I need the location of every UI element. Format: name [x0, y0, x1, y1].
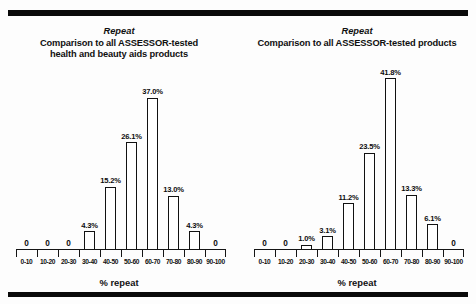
- x-axis-tick: [58, 250, 79, 257]
- histogram-bin: 37.0%: [142, 63, 163, 249]
- x-axis-tick-label: 70-80: [163, 258, 184, 270]
- bar-value-label: 13.0%: [163, 185, 184, 194]
- bar-value-label: 23.5%: [359, 142, 380, 151]
- histogram-bin: 0: [58, 63, 79, 249]
- bar-value-label: 3.1%: [319, 226, 336, 235]
- x-axis-tick-label: 90-100: [205, 258, 226, 270]
- bar-value-label: 6.1%: [424, 214, 441, 223]
- tick-mark: [100, 250, 101, 257]
- histogram-bin: 15.2%: [100, 63, 121, 249]
- tick-mark: [37, 250, 38, 257]
- x-axis-tick-label: 90-100: [443, 258, 464, 270]
- histogram-bin: 6.1%: [422, 51, 443, 249]
- figure-page: Repeat Comparison to all ASSESSOR-tested…: [0, 0, 476, 304]
- histogram-bin: 1.0%: [296, 51, 317, 249]
- x-axis-tick-label: 0-10: [254, 258, 275, 270]
- bar-value-label: 15.2%: [100, 176, 121, 185]
- tick-mark: [463, 250, 464, 257]
- top-rule: [8, 10, 468, 16]
- bar-value-label: 41.8%: [380, 68, 401, 77]
- histogram-bin: 0: [443, 51, 464, 249]
- chart-title-left: Repeat Comparison to all ASSESSOR-tested…: [6, 20, 232, 61]
- bar-value-label: 11.2%: [338, 193, 358, 202]
- histogram-bar: [406, 195, 417, 249]
- histogram-bar: [343, 203, 354, 249]
- bar-value-label: 26.1%: [121, 132, 142, 141]
- bar-zero-label: 0: [451, 239, 455, 248]
- histogram-bin: 0: [37, 63, 58, 249]
- tick-mark: [443, 250, 444, 257]
- histogram-bar: [126, 142, 137, 249]
- bar-value-label: 37.0%: [142, 87, 163, 96]
- tick-mark: [225, 250, 226, 257]
- tick-mark: [401, 250, 402, 257]
- bottom-rule: [8, 292, 468, 297]
- chart-eyebrow-right: Repeat: [244, 26, 470, 38]
- chart-title-right: Repeat Comparison to all ASSESSOR-tested…: [244, 20, 470, 49]
- tick-mark: [121, 250, 122, 257]
- tick-mark: [359, 250, 360, 257]
- x-axis-tick-labels-right: 0-1010-2020-3030-4040-5050-6060-7070-808…: [254, 258, 464, 270]
- x-axis-tick: [142, 250, 163, 257]
- x-axis-tick-label: 80-90: [184, 258, 205, 270]
- x-axis-tick-label: 30-40: [79, 258, 100, 270]
- x-axis-tick-label: 10-20: [37, 258, 58, 270]
- x-axis-tick: [401, 250, 422, 257]
- bar-value-label: 4.3%: [186, 221, 203, 230]
- histogram-bin: 3.1%: [317, 51, 338, 249]
- bar-zero-label: 0: [24, 239, 28, 248]
- histogram-bin: 4.3%: [79, 63, 100, 249]
- x-axis-tick-label: 40-50: [100, 258, 121, 270]
- histogram-bin: 13.3%: [401, 51, 422, 249]
- bar-value-label: 13.3%: [401, 184, 422, 193]
- x-axis-tick-label: 50-60: [121, 258, 142, 270]
- histogram-bar: [147, 98, 158, 249]
- bar-zero-label: 0: [262, 239, 266, 248]
- x-axis-tick: [205, 250, 226, 257]
- x-axis-tick-label: 50-60: [359, 258, 380, 270]
- histogram-bar: [84, 231, 95, 249]
- tick-mark: [16, 250, 17, 257]
- histogram-bar: [364, 153, 375, 249]
- histogram-bin: 0: [254, 51, 275, 249]
- tick-mark: [380, 250, 381, 257]
- bars-left: 0004.3%15.2%26.1%37.0%13.0%4.3%0: [16, 63, 226, 249]
- histogram-bin: 0: [205, 63, 226, 249]
- tick-mark: [79, 250, 80, 257]
- tick-mark: [205, 250, 206, 257]
- histogram-bin: 0: [16, 63, 37, 249]
- x-axis-tick: [338, 250, 359, 257]
- tick-mark: [254, 250, 255, 257]
- bar-zero-label: 0: [213, 239, 217, 248]
- x-axis-tick: [184, 250, 205, 257]
- x-axis-caption-left: % repeat: [6, 277, 232, 288]
- tick-mark: [338, 250, 339, 257]
- tick-mark: [163, 250, 164, 257]
- chart-eyebrow-left: Repeat: [6, 26, 232, 38]
- x-axis-tick: [100, 250, 121, 257]
- x-axis-tick-label: 20-30: [58, 258, 79, 270]
- x-axis-tick: [422, 250, 443, 257]
- histogram-bin: 41.8%: [380, 51, 401, 249]
- x-axis-tick: [380, 250, 401, 257]
- x-axis-ticks-left: [16, 250, 226, 257]
- histogram-bar: [105, 187, 116, 249]
- chart-panel-left: Repeat Comparison to all ASSESSOR-tested…: [0, 20, 238, 290]
- histogram-bin: 23.5%: [359, 51, 380, 249]
- x-axis-tick-labels-left: 0-1010-2020-3030-4040-5050-6060-7070-808…: [16, 258, 226, 270]
- x-axis-tick: [275, 250, 296, 257]
- x-axis-tick: [121, 250, 142, 257]
- x-axis-tick-label: 60-70: [380, 258, 401, 270]
- plot-area-right: 001.0%3.1%11.2%23.5%41.8%13.3%6.1%0 0-10…: [244, 51, 470, 290]
- bar-value-label: 4.3%: [81, 221, 98, 230]
- x-axis-tick: [254, 250, 275, 257]
- tick-mark: [317, 250, 318, 257]
- tick-mark: [422, 250, 423, 257]
- histogram-bar: [189, 231, 200, 249]
- tick-mark: [296, 250, 297, 257]
- chart-panel-right: Repeat Comparison to all ASSESSOR-tested…: [238, 20, 476, 290]
- x-axis-tick: [359, 250, 380, 257]
- x-axis-tick-label: 70-80: [401, 258, 422, 270]
- x-axis-ticks-right: [254, 250, 464, 257]
- tick-mark: [184, 250, 185, 257]
